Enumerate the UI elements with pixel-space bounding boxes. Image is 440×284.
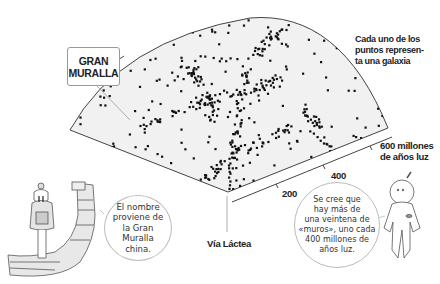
bubble-line: china. (125, 244, 151, 255)
bubble-line: hay más de (314, 205, 361, 215)
tick-400 (323, 165, 325, 169)
tick-600 (370, 146, 372, 150)
bubble-line: 400 millones de (305, 235, 369, 245)
galaxy-note: Cada uno de los puntos represen- ta una … (355, 34, 435, 67)
bubble-line: El nombre (116, 202, 159, 213)
speech-bubble-astronaut: Se cree que hay más de una veintena de «… (294, 182, 380, 268)
bubble-line: años luz. (319, 245, 355, 255)
note-line: Cada uno de los (355, 34, 435, 45)
note-line: puntos represen- (355, 45, 435, 56)
callout-line: MURALLA (69, 67, 119, 79)
tick-label-600-line1: 600 millones (380, 140, 433, 151)
bubble-tail (100, 210, 104, 214)
note-line: ta una galaxia (355, 56, 435, 67)
tick-label-400: 400 (331, 170, 346, 181)
bubble-line: «muros», uno cada (299, 225, 376, 235)
bubble-line: Se cree que (313, 195, 361, 205)
tick-label-600-line2: de años luz (380, 151, 433, 162)
astronaut-figure (384, 172, 420, 258)
bubble-line: la Gran (123, 223, 154, 234)
bubble-line: Muralla (122, 233, 153, 244)
bubble-line: una veintena de (304, 215, 369, 225)
tick-label-600: 600 millones de años luz (380, 140, 433, 162)
tick-label-200: 200 (282, 188, 297, 199)
scholar-figure (30, 183, 54, 258)
origin-label: Vía Láctea (207, 238, 251, 249)
bubble-line: proviene de (113, 212, 163, 223)
great-wall-callout: GRAN MURALLA (67, 47, 120, 86)
callout-line: GRAN (79, 55, 109, 67)
speech-bubble-scholar: El nombre proviene de la Gran Muralla ch… (104, 195, 172, 261)
tick-200 (276, 184, 278, 188)
galaxy-survey-diagram: GRAN MURALLA Cada uno de los puntos repr… (0, 0, 440, 284)
